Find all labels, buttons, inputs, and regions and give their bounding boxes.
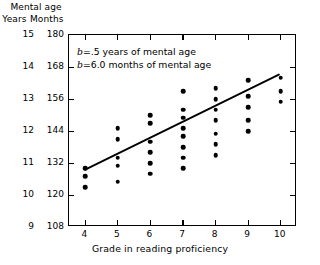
- y-tick-years-12: 12: [23, 126, 34, 135]
- y-axis-tick-mark: [290, 195, 295, 196]
- x-axis-tick-mark: [215, 220, 216, 225]
- data-point: [116, 155, 121, 160]
- data-point: [213, 153, 218, 158]
- data-point: [148, 150, 153, 155]
- x-tick-9: 9: [244, 229, 250, 239]
- y-axis-years-label: Years: [1, 14, 27, 25]
- y-axis-tick-mark: [290, 67, 295, 68]
- data-point: [246, 94, 251, 99]
- y-axis-tick-mark: [290, 163, 295, 164]
- data-point: [278, 75, 283, 80]
- plot-area: b=.5 years of mental age b=6.0 months of…: [68, 34, 296, 226]
- y-axis-title: Mental age: [0, 2, 64, 13]
- x-axis-tick-mark: [280, 35, 281, 40]
- data-points-layer: [69, 35, 295, 225]
- y-tick-months-108: 108: [47, 222, 64, 231]
- data-point: [278, 89, 283, 94]
- x-axis-tick-mark: [215, 35, 216, 40]
- x-axis-tick-mark: [280, 220, 281, 225]
- data-point: [213, 107, 218, 112]
- x-axis-tick-mark: [85, 35, 86, 40]
- y-tick-years-15: 15: [23, 30, 34, 39]
- x-axis-tick-mark: [150, 35, 151, 40]
- data-point: [181, 134, 186, 139]
- x-axis-title: Grade in reading proficiency: [0, 243, 320, 254]
- y-tick-months-144: 144: [47, 126, 64, 135]
- y-axis-tick-mark: [69, 67, 74, 68]
- data-point: [181, 89, 186, 94]
- data-point: [181, 155, 186, 160]
- y-axis-tick-mark: [290, 99, 295, 100]
- data-point: [213, 118, 218, 123]
- x-axis-tick-mark: [182, 220, 183, 225]
- x-axis-tick-mark: [117, 220, 118, 225]
- x-tick-10: 10: [274, 229, 285, 239]
- y-axis-tick-mark: [290, 131, 295, 132]
- data-point: [213, 97, 218, 102]
- data-point: [116, 137, 121, 142]
- data-point: [213, 86, 218, 91]
- y-tick-years-10: 10: [23, 190, 34, 199]
- y-tick-months-180: 180: [47, 30, 64, 39]
- y-tick-months-132: 132: [47, 158, 64, 167]
- data-point: [246, 118, 251, 123]
- x-axis-ticks: 45678910: [68, 229, 296, 241]
- x-tick-4: 4: [81, 229, 87, 239]
- x-tick-7: 7: [179, 229, 185, 239]
- y-tick-months-168: 168: [47, 62, 64, 71]
- data-point: [116, 163, 121, 168]
- y-axis-subheaders: Years Months: [0, 14, 64, 25]
- data-point: [181, 107, 186, 112]
- y-axis-tick-mark: [69, 163, 74, 164]
- data-point: [148, 161, 153, 166]
- y-tick-years-14: 14: [23, 62, 34, 71]
- data-point: [181, 115, 186, 120]
- x-axis-tick-mark: [248, 220, 249, 225]
- data-point: [246, 78, 251, 83]
- y-axis-tick-mark: [69, 99, 74, 100]
- data-point: [181, 166, 186, 171]
- data-point: [116, 126, 121, 131]
- data-point: [116, 179, 121, 184]
- y-axis-header: Mental age Years Months: [0, 2, 64, 25]
- x-axis-tick-mark: [182, 35, 183, 40]
- x-axis-tick-mark: [248, 35, 249, 40]
- data-point: [83, 174, 88, 179]
- x-axis-tick-mark: [150, 220, 151, 225]
- y-tick-years-11: 11: [23, 158, 34, 167]
- y-tick-years-9: 9: [28, 222, 34, 231]
- x-axis-tick-mark: [117, 35, 118, 40]
- data-point: [83, 185, 88, 190]
- y-axis-tick-mark: [69, 131, 74, 132]
- data-point: [83, 166, 88, 171]
- y-tick-months-156: 156: [47, 94, 64, 103]
- data-point: [148, 113, 153, 118]
- data-point: [246, 105, 251, 110]
- x-tick-8: 8: [212, 229, 218, 239]
- data-point: [213, 142, 218, 147]
- data-point: [213, 131, 218, 136]
- data-point: [148, 121, 153, 126]
- x-axis-tick-mark: [85, 220, 86, 225]
- data-point: [181, 145, 186, 150]
- data-point: [148, 171, 153, 176]
- data-point: [148, 139, 153, 144]
- chart-figure: Mental age Years Months 9101112131415 10…: [0, 0, 320, 265]
- data-point: [246, 129, 251, 134]
- y-tick-years-13: 13: [23, 94, 34, 103]
- y-tick-months-120: 120: [47, 190, 64, 199]
- data-point: [181, 126, 186, 131]
- y-axis-months-label: Months: [29, 14, 63, 25]
- data-point: [278, 99, 283, 104]
- y-axis-tick-mark: [69, 195, 74, 196]
- x-tick-5: 5: [114, 229, 120, 239]
- x-tick-6: 6: [147, 229, 153, 239]
